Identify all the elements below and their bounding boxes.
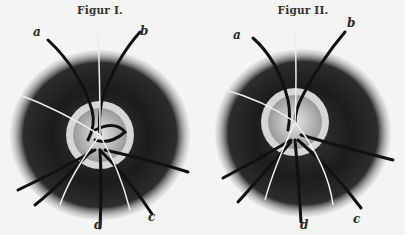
label-d: d: [300, 218, 308, 232]
label-a: a: [33, 25, 41, 39]
label-c: c: [148, 210, 155, 224]
label-a: a: [233, 28, 241, 42]
figure-1: Figur I.: [0, 0, 200, 235]
fundus-illustration-1: [0, 0, 200, 235]
label-b: b: [140, 24, 148, 38]
label-d: d: [94, 218, 102, 232]
figure-2: Figur II.: [203, 0, 403, 235]
label-b: b: [347, 16, 355, 30]
label-c: c: [353, 212, 360, 226]
